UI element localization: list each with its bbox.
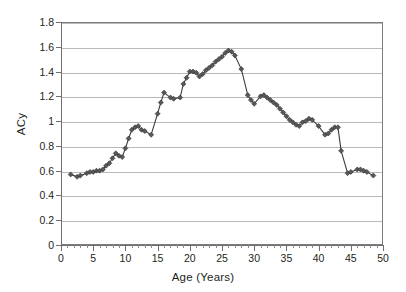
y-tick-label: 1 xyxy=(48,116,54,127)
x-tick-minor xyxy=(338,245,339,248)
x-tick-major xyxy=(158,245,159,251)
x-tick-minor xyxy=(248,245,249,248)
x-axis-title: Age (Years) xyxy=(0,271,406,283)
data-point xyxy=(126,136,131,141)
y-tick-label: 0.8 xyxy=(39,141,54,152)
x-tick-major xyxy=(222,245,223,251)
x-tick-minor xyxy=(170,245,171,248)
x-tick-major xyxy=(125,245,126,251)
x-tick-minor xyxy=(331,245,332,248)
x-tick-minor xyxy=(344,245,345,248)
data-point xyxy=(149,132,154,137)
x-tick-label: 0 xyxy=(46,253,76,264)
y-axis-title: ACy xyxy=(15,94,27,154)
data-series xyxy=(61,22,383,245)
x-tick-label: 5 xyxy=(78,253,108,264)
x-tick-minor xyxy=(196,245,197,248)
series-markers xyxy=(68,48,376,179)
x-tick-minor xyxy=(138,245,139,248)
x-tick-minor xyxy=(364,245,365,248)
y-tick-label: 0.2 xyxy=(39,215,54,226)
x-tick-minor xyxy=(145,245,146,248)
x-tick-major xyxy=(286,245,287,251)
x-tick-major xyxy=(254,245,255,251)
x-tick-major xyxy=(351,245,352,251)
x-tick-minor xyxy=(306,245,307,248)
x-tick-major xyxy=(61,245,62,251)
x-tick-minor xyxy=(228,245,229,248)
data-point xyxy=(181,81,186,86)
x-tick-minor xyxy=(177,245,178,248)
x-tick-label: 20 xyxy=(175,253,205,264)
chart-container: 00.20.40.60.811.21.41.61.8 0510152025303… xyxy=(0,0,406,292)
x-tick-major xyxy=(93,245,94,251)
data-point xyxy=(158,100,163,105)
data-point xyxy=(184,75,189,80)
y-tick-label: 0 xyxy=(48,240,54,251)
x-tick-label: 10 xyxy=(110,253,140,264)
y-tick-label: 1.4 xyxy=(39,67,54,78)
data-point xyxy=(371,173,376,178)
x-tick-label: 30 xyxy=(239,253,269,264)
x-tick-major xyxy=(383,245,384,251)
x-tick-minor xyxy=(274,245,275,248)
x-tick-minor xyxy=(67,245,68,248)
x-tick-minor xyxy=(151,245,152,248)
x-tick-minor xyxy=(119,245,120,248)
x-tick-label: 45 xyxy=(336,253,366,264)
x-tick-minor xyxy=(87,245,88,248)
x-tick-minor xyxy=(113,245,114,248)
x-tick-minor xyxy=(164,245,165,248)
x-tick-minor xyxy=(216,245,217,248)
data-point xyxy=(335,125,340,130)
x-tick-label: 35 xyxy=(271,253,301,264)
data-point xyxy=(178,95,183,100)
data-point xyxy=(239,67,244,72)
data-point xyxy=(155,111,160,116)
y-tick-label: 1.8 xyxy=(39,17,54,28)
x-tick-minor xyxy=(261,245,262,248)
x-tick-label: 25 xyxy=(207,253,237,264)
series-line xyxy=(71,50,374,176)
x-tick-label: 15 xyxy=(143,253,173,264)
x-tick-minor xyxy=(132,245,133,248)
x-tick-minor xyxy=(203,245,204,248)
x-tick-minor xyxy=(280,245,281,248)
data-point xyxy=(339,148,344,153)
x-tick-minor xyxy=(241,245,242,248)
y-tick-label: 1.6 xyxy=(39,42,54,53)
x-tick-minor xyxy=(312,245,313,248)
x-tick-minor xyxy=(299,245,300,248)
x-tick-minor xyxy=(183,245,184,248)
x-tick-minor xyxy=(80,245,81,248)
x-tick-major xyxy=(319,245,320,251)
x-tick-minor xyxy=(370,245,371,248)
x-tick-minor xyxy=(293,245,294,248)
x-tick-minor xyxy=(209,245,210,248)
y-tick-label: 0.4 xyxy=(39,190,54,201)
x-tick-minor xyxy=(74,245,75,248)
data-point xyxy=(68,172,73,177)
x-tick-minor xyxy=(357,245,358,248)
x-tick-label: 50 xyxy=(368,253,398,264)
x-tick-label: 40 xyxy=(304,253,334,264)
x-tick-minor xyxy=(106,245,107,248)
x-tick-minor xyxy=(235,245,236,248)
y-tick-label: 0.6 xyxy=(39,166,54,177)
y-tick-label: 1.2 xyxy=(39,91,54,102)
x-tick-minor xyxy=(377,245,378,248)
x-tick-minor xyxy=(325,245,326,248)
x-tick-minor xyxy=(267,245,268,248)
data-point xyxy=(123,146,128,151)
x-tick-major xyxy=(190,245,191,251)
x-tick-minor xyxy=(100,245,101,248)
